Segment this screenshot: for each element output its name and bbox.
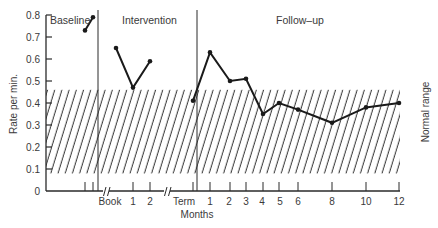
x-tick-label: 8: [329, 196, 335, 207]
x-tick-label: 1: [130, 196, 136, 207]
y-tick-label: 0.5: [26, 76, 40, 87]
data-point: [397, 101, 402, 106]
data-point: [277, 101, 282, 106]
x-tick-label: 5: [277, 196, 283, 207]
data-point: [91, 15, 96, 20]
data-point: [191, 99, 196, 104]
data-point: [208, 50, 213, 55]
x-tick-label: 2: [226, 196, 232, 207]
right-axis-label: Normal range: [420, 81, 431, 142]
y-tick-label: 0.4: [26, 98, 40, 109]
data-point: [148, 59, 153, 64]
y-tick-label: 0.2: [26, 142, 40, 153]
data-point: [131, 85, 136, 90]
y-tick-label: 0.7: [26, 32, 40, 43]
data-point: [296, 107, 301, 112]
single-subject-chart: 00.10.20.30.40.50.60.70.8Book12Term12345…: [0, 0, 438, 228]
data-point: [364, 105, 369, 110]
y-tick-label: 0.3: [26, 120, 40, 131]
data-point: [330, 121, 335, 126]
phase-label-baseline: Baseline: [50, 14, 90, 26]
x-tick-label: Term: [173, 196, 195, 207]
y-tick-label: 0.8: [26, 10, 40, 21]
x-tick-label: 6: [295, 196, 301, 207]
x-tick-label: 12: [393, 196, 405, 207]
y-tick-label: 0: [34, 186, 40, 197]
series-line-1: [116, 48, 150, 88]
x-tick-label: 4: [259, 196, 265, 207]
y-tick-label: 0.1: [26, 164, 40, 175]
y-axis-label: Rate per min.: [8, 74, 19, 134]
x-axis-label: Months: [181, 209, 214, 220]
x-tick-label: 2: [147, 196, 153, 207]
x-tick-label: 1: [207, 196, 213, 207]
data-point: [83, 28, 88, 33]
x-tick-label: 3: [243, 196, 249, 207]
data-point: [244, 77, 249, 82]
x-tick-label: 10: [360, 196, 372, 207]
phase-label-intervention: Intervention: [122, 14, 177, 26]
y-tick-label: 0.6: [26, 54, 40, 65]
x-tick-label: Book: [99, 196, 123, 207]
data-point: [261, 112, 266, 117]
data-point: [114, 46, 119, 51]
data-point: [228, 79, 233, 84]
normal-range-band: [46, 90, 400, 174]
phase-label-followup: Follow–up: [276, 14, 324, 26]
